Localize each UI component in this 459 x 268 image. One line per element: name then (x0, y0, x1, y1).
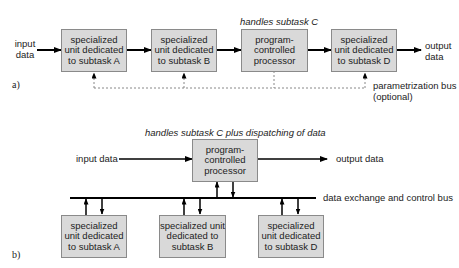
processor-box-b: program-controlled processor (192, 139, 258, 182)
unit-b-box-b: specialized unit dedicated to subtask B (159, 215, 226, 258)
parametrization-bus-label: parametrization bus (373, 81, 456, 92)
unit-d-box-b: specialized unit dedicated to subtask D (258, 215, 324, 258)
unit-b-label: specialized unit dedicated to subtask B (152, 35, 216, 67)
panel-label-a: a) (12, 80, 20, 91)
unit-d-label: specialized unit dedicated to subtask D (332, 35, 396, 67)
unit-a-label-b: specialized unit dedicated to subtask A (62, 221, 126, 253)
processor-label-b: program-controlled processor (203, 145, 247, 177)
unit-d-label-b: specialized unit dedicated to subtask D (259, 221, 323, 253)
input-data-label-a: input data (14, 39, 36, 60)
data-bus-label: data exchange and control bus (323, 193, 453, 204)
unit-a-label: specialized unit dedicated to subtask A (62, 35, 126, 67)
unit-b-box-a: specialized unit dedicated to subtask B (151, 29, 217, 72)
processor-note-b: handles subtask C plus dispatching of da… (145, 128, 326, 139)
output-data-label-a: output data (425, 41, 453, 62)
unit-a-box-b: specialized unit dedicated to subtask A (61, 215, 127, 258)
unit-a-box-a: specialized unit dedicated to subtask A (61, 29, 127, 72)
panel-label-b: b) (12, 250, 20, 261)
processor-note-a: handles subtask C (240, 17, 318, 28)
processor-box-a: program-controlled processor (241, 29, 308, 72)
unit-b-label-b: specialized unit dedicated to subtask B (160, 221, 225, 253)
unit-d-box-a: specialized unit dedicated to subtask D (331, 29, 397, 72)
input-data-label-b: input data (76, 154, 118, 165)
processor-label: program-controlled processor (252, 35, 297, 67)
output-data-label-b: output data (336, 154, 384, 165)
parametrization-bus-optional: (optional) (373, 92, 413, 103)
